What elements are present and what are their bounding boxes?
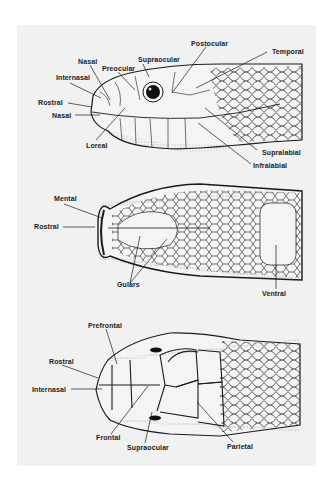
label-rostral-lateral: Rostral xyxy=(38,99,63,107)
label-prefrontal: Prefrontal xyxy=(88,322,122,330)
label-infralabial: Infralabial xyxy=(253,162,287,170)
label-rostral-dorsal: Rostral xyxy=(49,358,74,366)
label-nasal: Nasal xyxy=(52,112,71,120)
label-postocular: Postocular xyxy=(191,40,228,48)
label-nasal-top: Nasal xyxy=(78,58,97,66)
label-rostral-ventral: Rostral xyxy=(34,223,59,231)
label-parietal: Parietal xyxy=(227,443,253,451)
label-ventral: Ventral xyxy=(262,290,286,298)
label-loreal: Loreal xyxy=(86,142,108,150)
label-preocular: Preocular xyxy=(102,65,135,73)
label-supraocular: Supraocular xyxy=(138,56,180,64)
label-supralabial: Supralabial xyxy=(262,149,301,157)
label-temporal: Temporal xyxy=(272,48,304,56)
dorsal-view xyxy=(96,333,300,436)
ventral-view xyxy=(98,184,302,280)
label-mental: Mental xyxy=(54,195,77,203)
label-gulars: Gulars xyxy=(117,281,140,289)
label-internasal-dorsal: Internasal xyxy=(32,386,66,394)
label-supraocular-dorsal: Supraocular xyxy=(127,444,169,452)
snake-head-diagrams xyxy=(0,0,326,496)
label-internasal-lateral: Internasal xyxy=(56,74,90,82)
label-frontal: Frontal xyxy=(96,434,120,442)
